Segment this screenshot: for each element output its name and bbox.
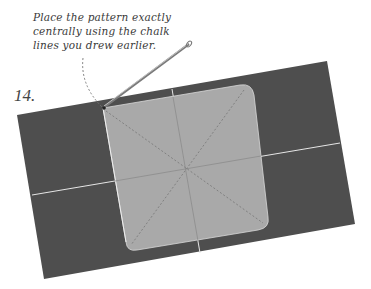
- leader-line: [83, 58, 102, 107]
- sewing-illustration: [0, 0, 371, 289]
